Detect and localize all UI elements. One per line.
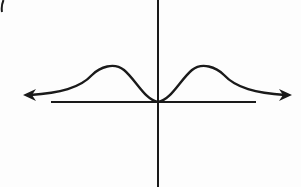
graph-canvas [0, 0, 301, 187]
label-fragment-paren [2, 0, 4, 12]
graph-figure: Graph of an even function with two symme… [0, 0, 301, 187]
